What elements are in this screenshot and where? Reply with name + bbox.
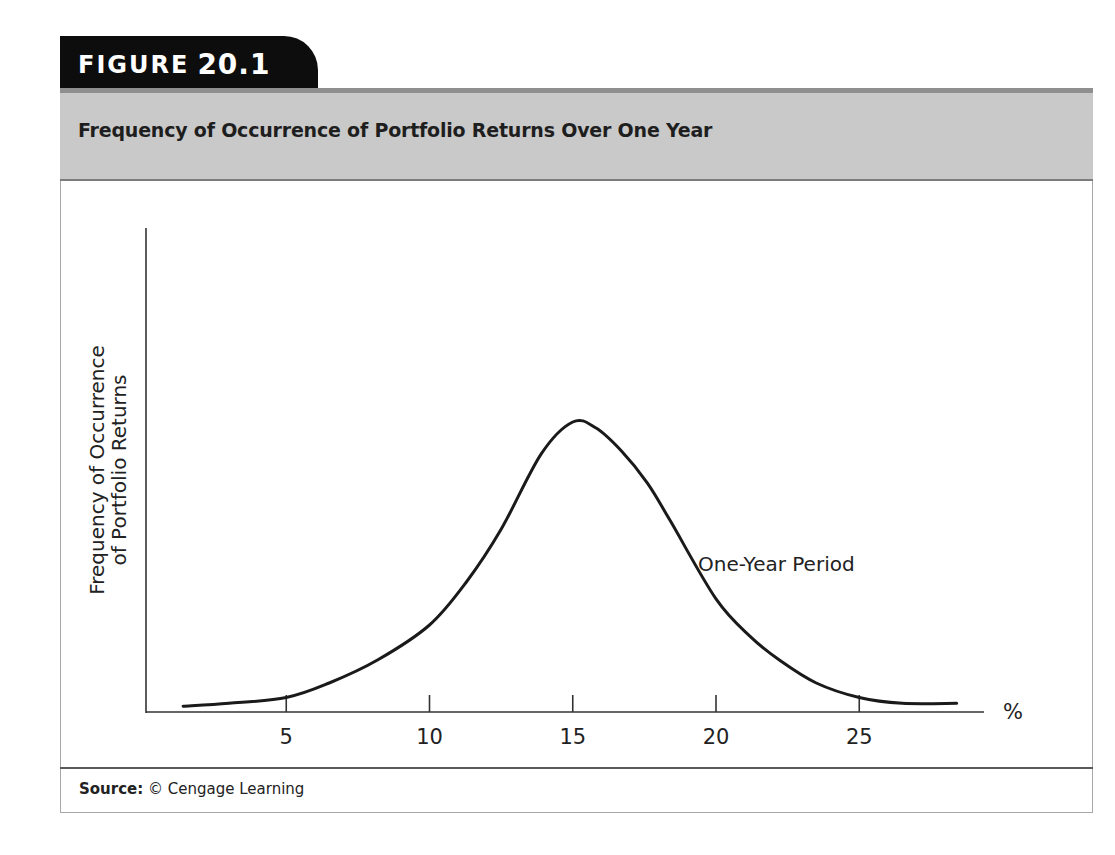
x-axis-unit-label: %	[1003, 700, 1023, 724]
source-line: Source: © Cengage Learning	[79, 780, 304, 798]
x-tick-label: 20	[703, 725, 730, 749]
x-tick-label: 25	[846, 725, 873, 749]
x-ticks	[286, 695, 859, 712]
source-divider	[60, 767, 1093, 769]
chart-area: 510152025 % One-Year Period Frequency of…	[0, 0, 1115, 855]
curve-annotation: One-Year Period	[698, 552, 855, 576]
x-tick-labels: 510152025	[280, 725, 873, 749]
x-tick-label: 5	[280, 725, 293, 749]
x-tick-label: 15	[559, 725, 586, 749]
y-axis-label-line-2: of Portfolio Returns	[107, 374, 131, 565]
y-axis-label-line-1: Frequency of Occurrence	[85, 345, 109, 595]
x-tick-label: 10	[416, 725, 443, 749]
y-axis-label: Frequency of Occurrence of Portfolio Ret…	[85, 345, 131, 595]
source-text: © Cengage Learning	[148, 780, 304, 798]
source-label: Source:	[79, 780, 143, 798]
